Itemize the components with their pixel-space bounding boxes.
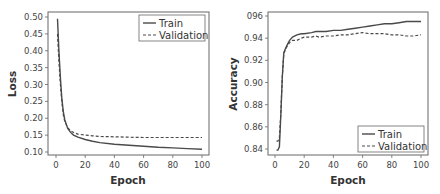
y-tick-label: 0.90 bbox=[244, 78, 263, 88]
x-tick-label: 40 bbox=[109, 160, 120, 170]
y-tick-label: 0.92 bbox=[244, 55, 263, 65]
loss-y-axis-label: Loss bbox=[6, 71, 18, 97]
accuracy-x-ticks: 020406080100 bbox=[272, 155, 429, 170]
x-tick-label: 20 bbox=[80, 160, 91, 170]
x-tick-label: 80 bbox=[167, 160, 178, 170]
y-tick-label: 0.35 bbox=[24, 63, 43, 73]
accuracy-legend-train: Train bbox=[377, 129, 402, 140]
y-tick-label: 0.94 bbox=[244, 33, 263, 43]
x-tick-label: 60 bbox=[138, 160, 149, 170]
y-tick-label: 0.50 bbox=[24, 12, 43, 22]
training-curves-figure: 0.100.150.200.250.300.350.400.450.50 020… bbox=[0, 0, 440, 194]
accuracy-legend: Train Validation bbox=[358, 126, 427, 152]
x-tick-label: 80 bbox=[386, 160, 397, 170]
y-tick-label: 0.45 bbox=[24, 29, 43, 39]
y-tick-label: 0.88 bbox=[244, 100, 263, 110]
x-tick-label: 100 bbox=[413, 160, 429, 170]
y-tick-label: 0.30 bbox=[24, 80, 43, 90]
y-tick-label: 0.84 bbox=[244, 144, 263, 154]
validation-series-line bbox=[58, 34, 203, 138]
accuracy-y-axis-label: Accuracy bbox=[227, 57, 239, 111]
loss-x-axis-label: Epoch bbox=[110, 174, 146, 186]
y-tick-label: 0.25 bbox=[24, 96, 43, 106]
y-tick-label: 0.20 bbox=[24, 113, 43, 123]
validation-series-line bbox=[277, 33, 422, 142]
y-tick-label: 0.15 bbox=[24, 130, 43, 140]
accuracy-chart: 0.840.860.880.900.920.94096 020406080100… bbox=[227, 11, 429, 186]
x-tick-label: 0 bbox=[272, 160, 277, 170]
x-tick-label: 0 bbox=[53, 160, 58, 170]
loss-legend-train: Train bbox=[158, 18, 183, 29]
accuracy-y-ticks: 0.840.860.880.900.920.94096 bbox=[244, 11, 268, 154]
accuracy-x-axis-label: Epoch bbox=[330, 174, 366, 186]
y-tick-label: 0.10 bbox=[24, 147, 43, 157]
x-tick-label: 40 bbox=[328, 160, 339, 170]
y-tick-label: 0.40 bbox=[24, 46, 43, 56]
loss-x-ticks: 020406080100 bbox=[53, 155, 210, 170]
x-tick-label: 100 bbox=[194, 160, 210, 170]
accuracy-legend-validation: Validation bbox=[378, 141, 427, 152]
loss-legend-validation: Validation bbox=[159, 30, 208, 41]
x-tick-label: 60 bbox=[357, 160, 368, 170]
y-tick-label: 096 bbox=[247, 11, 263, 21]
y-tick-label: 0.86 bbox=[244, 122, 263, 132]
loss-chart: 0.100.150.200.250.300.350.400.450.50 020… bbox=[6, 12, 210, 186]
x-tick-label: 20 bbox=[299, 160, 310, 170]
loss-y-ticks: 0.100.150.200.250.300.350.400.450.50 bbox=[24, 12, 48, 157]
loss-legend: Train Validation bbox=[139, 15, 208, 41]
